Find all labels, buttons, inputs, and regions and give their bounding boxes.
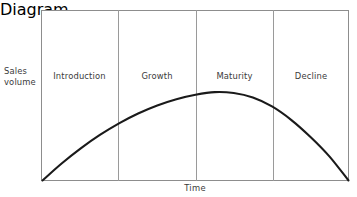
x-axis-label: Time — [41, 182, 349, 194]
stage-divider-1 — [118, 10, 119, 181]
stage-label-maturity: Maturity — [196, 69, 273, 83]
stage-label-decline: Decline — [273, 69, 349, 83]
stage-divider-3 — [273, 10, 274, 181]
y-axis-label-line-1: Sales — [4, 66, 40, 77]
plot-frame — [41, 10, 349, 181]
product-life-cycle-diagram: Introduction Growth Maturity Decline Sal… — [0, 0, 357, 197]
y-axis-label-line-2: volume — [4, 77, 40, 88]
stage-label-introduction: Introduction — [41, 69, 118, 83]
y-axis-label: Sales volume — [4, 66, 40, 87]
stage-divider-2 — [196, 10, 197, 181]
stage-label-growth: Growth — [118, 69, 196, 83]
